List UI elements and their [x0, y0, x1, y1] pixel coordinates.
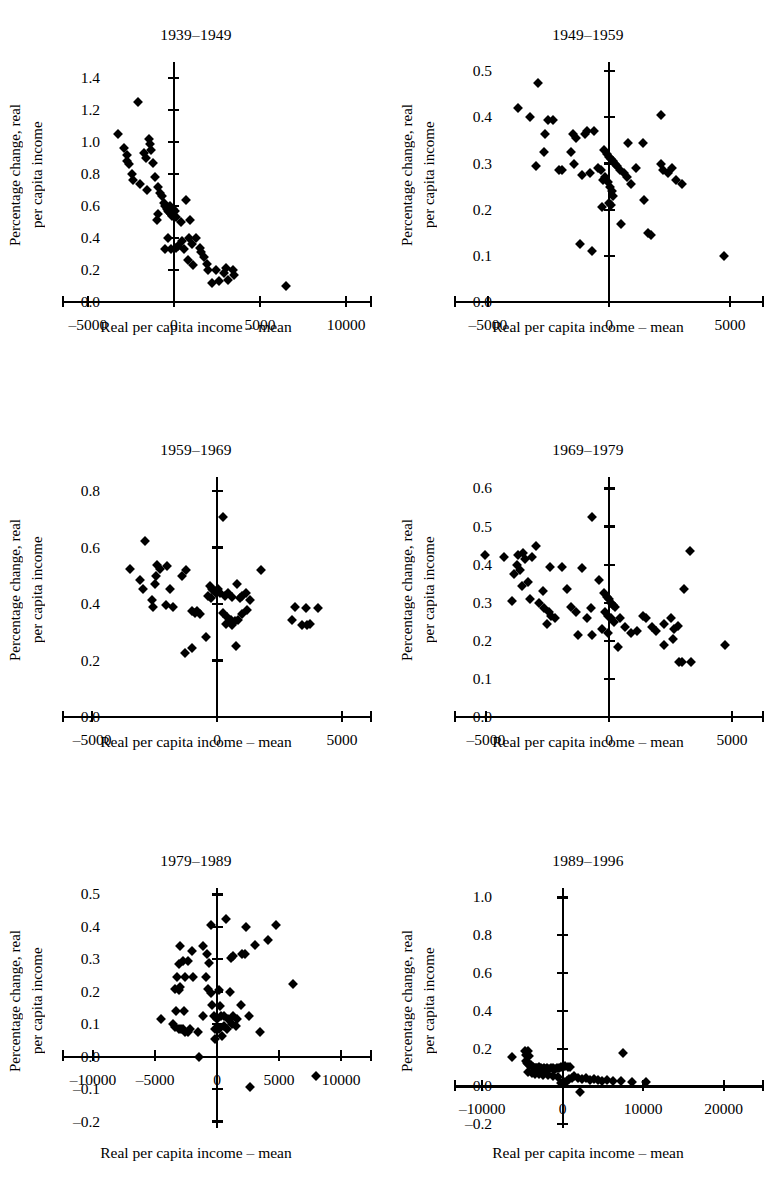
scatter-point: [539, 147, 549, 157]
y-axis-tick: [557, 1123, 568, 1125]
scatter-point: [290, 602, 300, 612]
scatter-point: [613, 642, 623, 652]
scatter-point: [150, 172, 160, 182]
y-axis-title-line1: Percentage change, real: [396, 60, 418, 290]
scatter-point: [255, 1027, 265, 1037]
y-axis-tick: [212, 490, 223, 492]
y-axis-title-line1: Percentage change, real: [4, 886, 26, 1116]
y-axis-tick-label: 0.0: [473, 293, 492, 311]
plot-area: –0.2–0.10.00.10.20.30.40.5–10000–5000050…: [62, 888, 372, 1128]
y-axis-tick: [168, 173, 179, 175]
x-axis-title: Real per capita income – mean: [392, 318, 784, 336]
y-axis-tick-labels: 0.00.10.20.30.40.5: [446, 62, 492, 302]
scatter-point: [148, 158, 158, 168]
y-axis-tick-label: 0.1: [81, 1015, 100, 1033]
y-axis-tick-label: 0.0: [473, 708, 492, 726]
y-axis-tick: [168, 141, 179, 143]
y-axis-tick: [557, 972, 568, 974]
scatter-point: [567, 147, 577, 157]
y-axis-line: [173, 62, 175, 302]
scatter-point: [623, 138, 633, 148]
y-axis-tick-label: 0.8: [473, 926, 492, 944]
scatter-point: [311, 1071, 321, 1081]
y-axis-tick-label: 0.2: [81, 983, 100, 1001]
x-axis-tick: [729, 296, 731, 307]
y-axis-tick: [168, 269, 179, 271]
y-axis-tick-labels: –0.2–0.10.00.10.20.30.40.5: [54, 888, 100, 1128]
scatter-point: [538, 586, 548, 596]
scatter-point: [147, 595, 157, 605]
y-axis-tick-label: 1.0: [81, 133, 100, 151]
scatter-point: [659, 640, 669, 650]
y-axis-tick-label: 0.0: [81, 708, 100, 726]
chart-panel-1969-1979: 1969–1979 Percentage change, real per ca…: [392, 415, 784, 815]
scatter-point: [557, 562, 567, 572]
scatter-point: [540, 129, 550, 139]
scatter-point: [231, 641, 241, 651]
y-axis-tick-label: 0.4: [473, 556, 492, 574]
scatter-point: [271, 920, 281, 930]
y-axis-tick-label: 0.4: [81, 595, 100, 613]
y-axis-tick-labels: 0.00.10.20.30.40.50.6: [446, 477, 492, 717]
x-axis-tick: [259, 296, 261, 307]
scatter-point: [638, 138, 648, 148]
scatter-point: [499, 552, 509, 562]
scatter-point: [193, 1027, 203, 1037]
panel-title: 1989–1996: [392, 852, 784, 870]
y-axis-tick-label: 0.0: [81, 1048, 100, 1066]
scatter-point: [313, 603, 323, 613]
y-axis-tick-label: 0.4: [473, 108, 492, 126]
y-axis-tick-labels: 0.00.20.40.60.81.01.21.4: [54, 62, 100, 302]
y-axis-tick-label: 1.0: [473, 888, 492, 906]
x-axis-tick-label: 10000: [624, 1100, 663, 1118]
panel-title: 1939–1949: [0, 26, 392, 44]
y-axis-title-line2: per capita income: [418, 886, 440, 1116]
scatter-point: [513, 103, 523, 113]
scatter-point: [575, 1087, 585, 1097]
y-axis-tick-label: 0.2: [81, 261, 100, 279]
y-axis-tick: [604, 678, 615, 680]
scatter-point: [533, 78, 543, 88]
x-axis-title: Real per capita income – mean: [0, 1144, 392, 1162]
y-axis-tick: [212, 546, 223, 548]
scatter-point: [618, 1048, 628, 1058]
scatter-point: [587, 246, 597, 256]
scatter-point: [586, 603, 596, 613]
y-axis-tick: [212, 893, 223, 895]
y-axis-tick: [604, 525, 615, 527]
y-axis-tick-label: 0.1: [473, 670, 492, 688]
x-axis-end-cap: [762, 711, 764, 722]
y-axis-tick-label: 0.3: [81, 950, 100, 968]
y-axis-tick: [168, 77, 179, 79]
scatter-point: [152, 215, 162, 225]
y-axis-tick-label: 0.6: [473, 479, 492, 497]
y-axis-tick-label: 0.2: [81, 652, 100, 670]
scatter-point: [656, 110, 666, 120]
chart-panel-1979-1989: 1979–1989 Percentage change, real per ca…: [0, 826, 392, 1201]
scatter-point: [156, 1014, 166, 1024]
y-axis-tick-label: 0.0: [473, 1077, 492, 1095]
plot-area: 0.00.20.40.60.8–500005000: [62, 477, 372, 717]
x-axis-tick-label: 0: [213, 1071, 221, 1089]
y-axis-tick-label: 0.2: [473, 201, 492, 219]
scatter-point: [626, 179, 636, 189]
x-axis-tick-label: –5000: [136, 1071, 175, 1089]
y-axis-tick-label: 0.6: [81, 539, 100, 557]
scatter-point: [639, 196, 649, 206]
y-axis-tick: [212, 958, 223, 960]
scatter-point: [685, 546, 695, 556]
x-axis-end-cap: [762, 1080, 764, 1091]
x-axis-end-cap: [762, 296, 764, 307]
scatter-point: [168, 602, 178, 612]
x-axis-end-cap: [370, 296, 372, 307]
y-axis-tick: [212, 659, 223, 661]
y-axis-tick-label: 0.8: [81, 482, 100, 500]
y-axis-tick-label: 0.4: [81, 229, 100, 247]
scatter-point: [587, 512, 597, 522]
scatter-point: [163, 233, 173, 243]
y-axis-tick: [604, 487, 615, 489]
y-axis-tick-label: 0.3: [473, 594, 492, 612]
x-axis-tick: [345, 296, 347, 307]
y-axis-tick: [557, 1010, 568, 1012]
scatter-point: [531, 541, 541, 551]
